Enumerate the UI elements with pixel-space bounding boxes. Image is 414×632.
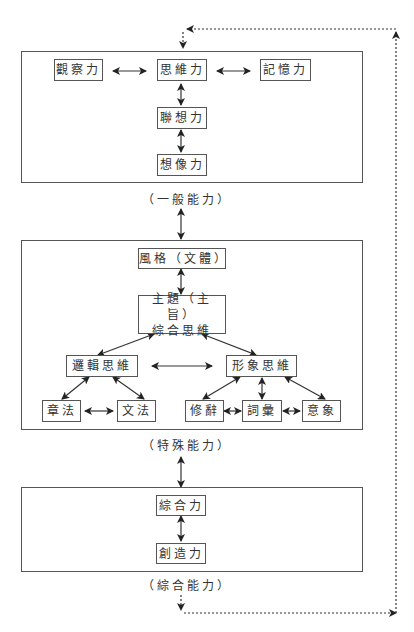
- node-observation: 觀察力: [54, 59, 103, 81]
- node-rhetoric: 修辭: [185, 400, 224, 422]
- node-thinking: 思維力: [157, 59, 207, 81]
- caption-comprehensive: （綜合能力）: [142, 576, 232, 593]
- node-logical-thinking: 邏輯思維: [66, 355, 138, 377]
- node-vocabulary: 詞彙: [242, 400, 282, 422]
- node-imagination: 想像力: [157, 154, 207, 176]
- node-synthesis: 綜合力: [156, 495, 206, 516]
- node-theme: 主題（主旨） 綜合思維: [138, 295, 226, 334]
- node-grammar: 文法: [117, 400, 156, 422]
- node-memory: 記憶力: [260, 59, 311, 81]
- node-structure: 章法: [42, 400, 81, 422]
- node-creativity: 創造力: [156, 543, 206, 564]
- node-imagery-thinking: 形象思維: [226, 355, 297, 377]
- caption-general: （一般能力）: [142, 190, 232, 207]
- node-association: 聯想力: [157, 107, 207, 129]
- caption-special: （特殊能力）: [142, 436, 232, 453]
- node-style: 風格（文體）: [138, 248, 226, 269]
- node-imagery: 意象: [302, 400, 341, 422]
